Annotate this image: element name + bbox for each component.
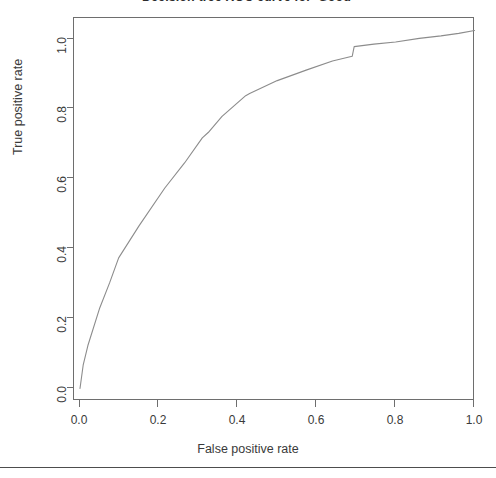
y-tick-label-5: 1.0 [55,37,69,81]
chart-title: Decision tree ROC curve for 'Good' [0,0,496,4]
y-axis-title: True positive rate [11,59,25,155]
y-tick-label-4: 0.8 [55,106,69,150]
y-tick-label-2: 0.4 [55,246,69,290]
x-tick-label-5: 1.0 [452,413,496,427]
roc-curve-svg [74,18,475,401]
x-axis-title: False positive rate [0,442,496,456]
y-tick-label-0: 0.0 [55,386,69,430]
roc-curve-line [80,31,475,389]
x-tick-label-3: 0.6 [294,413,338,427]
x-tick-label-2: 0.4 [215,413,259,427]
x-axis-ticks [73,400,474,408]
x-tick-label-1: 0.2 [136,413,180,427]
roc-chart-figure: Decision tree ROC curve for 'Good' 0.0 0… [0,0,496,478]
y-tick-label-1: 0.2 [55,316,69,360]
y-tick-label-3: 0.6 [55,176,69,220]
x-tick-label-4: 0.8 [373,413,417,427]
figure-bottom-rule [0,467,496,468]
plot-area [73,17,474,400]
